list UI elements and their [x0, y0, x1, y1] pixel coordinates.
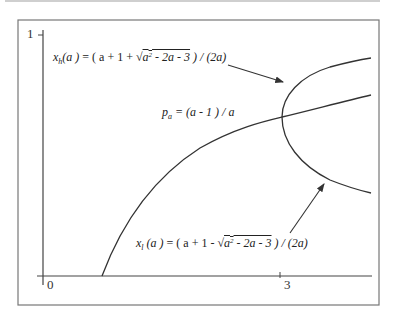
x-tick-label-0: 0: [47, 277, 54, 293]
arrow-to-lower-branch: [290, 184, 324, 233]
xl-arg: (a ): [144, 236, 164, 250]
curve-xh-upper-branch: [282, 58, 371, 117]
xh-radicand: a2 - 2a - 3: [143, 50, 191, 64]
label-xh-formula: xh(a ) = ( a + 1 + √a2 - 2a - 3 ) / (2a): [53, 50, 226, 66]
x-tick-label-3: 3: [284, 277, 291, 293]
xh-eq: = ( a + 1 +: [79, 50, 136, 64]
xh-rad-rest: - 2a - 3: [152, 50, 190, 64]
sqrt-symbol: √: [136, 50, 143, 64]
y-tick-label-1: 1: [27, 26, 34, 42]
xh-arg: (a ): [62, 50, 79, 64]
label-pa-formula: pa = (a - 1 ) / a: [162, 105, 234, 121]
xh-tail: ) / (2a): [190, 50, 226, 64]
label-xl-formula: xl (a ) = ( a + 1 - √a2 - 2a - 3 ) / (2a…: [136, 236, 308, 252]
xl-eq: = ( a + 1 -: [164, 236, 218, 250]
curve-xl-lower-branch: [282, 117, 371, 193]
xl-rad-rest: - 2a - 3: [234, 236, 272, 250]
xl-radicand: a2 - 2a - 3: [224, 236, 272, 250]
arrow-to-upper-branch: [228, 65, 283, 82]
pa-eq: = (a - 1 ) / a: [172, 105, 234, 119]
bifurcation-diagram: [0, 0, 397, 319]
xl-tail: ) / (2a): [272, 236, 308, 250]
